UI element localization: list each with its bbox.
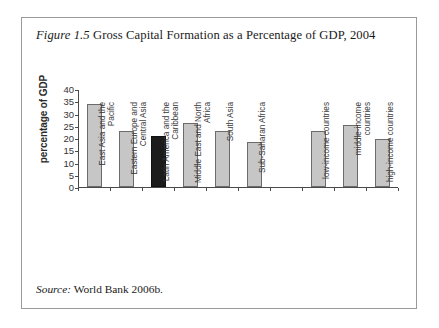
x-label-slot: high-income countries <box>366 190 398 282</box>
x-label-slot: low-income countries <box>302 190 334 282</box>
y-tick-label: 10 <box>63 159 74 169</box>
y-tick-label: 40 <box>63 85 74 95</box>
y-tick-mark <box>75 139 78 140</box>
x-label-slot: East Asia and the Pacific <box>78 190 110 282</box>
x-tick-label: Latin America and the Caribbean <box>162 102 181 190</box>
figure-caption: Figure 1.5 Gross Capital Formation as a … <box>36 28 404 43</box>
y-tick-mark <box>75 102 78 103</box>
y-tick-label: 5 <box>69 171 74 181</box>
source-note: Source: World Bank 2006b. <box>36 283 163 295</box>
figure-title: Gross Capital Formation as a Percentage … <box>93 28 376 42</box>
y-tick-mark <box>75 127 78 128</box>
chart-axes <box>78 90 398 188</box>
chart-plot-area: percentage of GDP 4035302520151050 East … <box>34 68 406 283</box>
x-tick-label: South Asia <box>226 102 235 190</box>
bar-slot-empty <box>270 89 302 187</box>
x-label-slot: Middle East and North Africa <box>174 190 206 282</box>
x-tick-mark <box>398 188 399 191</box>
y-tick-mark <box>75 115 78 116</box>
x-axis-tick-labels: East Asia and the PacificEastern Europe … <box>78 190 398 282</box>
bar-series <box>78 89 398 187</box>
x-tick-label: Sub-Saharan Africa <box>258 102 267 190</box>
x-tick-label: Middle East and North Africa <box>194 102 213 190</box>
y-tick-mark <box>75 90 78 91</box>
y-tick-label: 30 <box>63 110 74 120</box>
x-label-slot: South Asia <box>206 190 238 282</box>
x-label-slot: Eastern Europe and Central Asia <box>110 190 142 282</box>
source-label: Source: <box>36 283 71 295</box>
x-label-slot: Sub-Saharan Africa <box>238 190 270 282</box>
y-tick-label: 15 <box>63 147 74 157</box>
y-tick-mark <box>75 151 78 152</box>
y-tick-label: 25 <box>63 122 74 132</box>
y-axis-tick-labels: 4035302520151050 <box>52 90 74 188</box>
source-text: World Bank 2006b. <box>74 283 163 295</box>
figure-number: Figure 1.5 <box>36 28 90 42</box>
y-tick-label: 0 <box>69 183 74 193</box>
x-label-slot: middle-income countries <box>334 190 366 282</box>
x-tick-label: high-income countries <box>386 102 395 190</box>
x-label-slot-empty <box>270 190 302 282</box>
figure-container: Figure 1.5 Gross Capital Formation as a … <box>21 17 417 309</box>
x-label-slot: Latin America and the Caribbean <box>142 190 174 282</box>
x-tick-label: low-income countries <box>322 102 331 190</box>
y-tick-label: 35 <box>63 98 74 108</box>
x-tick-label: middle-income countries <box>354 102 373 190</box>
x-tick-label: Eastern Europe and Central Asia <box>130 102 149 190</box>
y-axis-title: percentage of GDP <box>38 69 52 169</box>
y-tick-mark <box>75 164 78 165</box>
y-tick-mark <box>75 176 78 177</box>
x-tick-label: East Asia and the Pacific <box>98 102 117 190</box>
y-tick-label: 20 <box>63 134 74 144</box>
